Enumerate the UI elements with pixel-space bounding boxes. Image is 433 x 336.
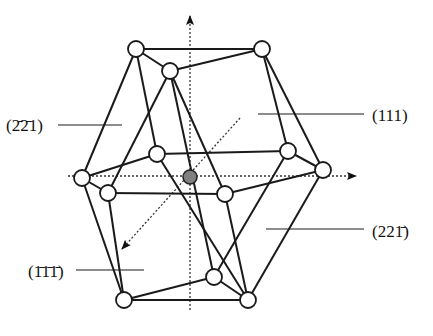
vertex-atom-A [128, 41, 144, 57]
vertex-atom-C [162, 63, 178, 79]
edge-FD [82, 154, 157, 178]
edge-HI [108, 193, 225, 194]
edge-EJ [214, 151, 288, 277]
vertex-atom-F [74, 170, 90, 186]
vertex-atom-B [254, 41, 270, 57]
edge-HK [108, 193, 124, 300]
lbl-m111-plane-label: (1̄1̄1̄) [28, 262, 64, 281]
lbl-221m-plane-label: (221̄) [372, 222, 409, 241]
vertex-atom-I [217, 186, 233, 202]
edge-JK [124, 277, 214, 300]
center-atom-dot [183, 170, 197, 184]
crystal-plane-diagram: (2̄2̄1)(111)(221̄)(1̄1̄1̄) [0, 0, 433, 336]
center-atom [183, 170, 197, 184]
vertex-atom-L [240, 292, 256, 308]
lbl-111-plane-label: (111) [372, 106, 408, 125]
edges [82, 49, 323, 300]
edge-BE [262, 49, 288, 151]
edge-GL [248, 170, 323, 300]
edge-CH [108, 71, 170, 193]
edge-IL [225, 194, 248, 300]
vertex-atom-E [280, 143, 296, 159]
vertex-atom-D [149, 146, 165, 162]
edge-CB [170, 49, 262, 71]
vertex-atom-K [116, 292, 132, 308]
axis-diagonal-arrow [122, 118, 240, 249]
edge-AF [82, 49, 136, 178]
vertex-atom-J [206, 269, 222, 285]
vertex-atom-H [100, 185, 116, 201]
edge-DE [157, 151, 288, 154]
vertex-atom-G [315, 162, 331, 178]
lbl-m221-plane-label: (2̄2̄1) [6, 116, 43, 135]
